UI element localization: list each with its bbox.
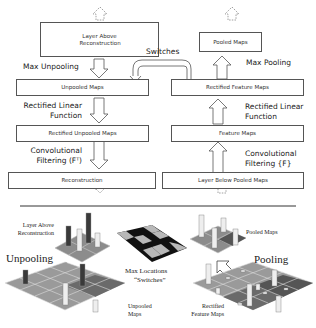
box-label: Rectified Unpooled Maps bbox=[48, 130, 116, 137]
box-label: Rectified Feature Maps bbox=[206, 84, 269, 91]
label-ill-unpooling: Unpooling bbox=[6, 251, 53, 265]
box-label: Unpooled Maps bbox=[61, 84, 103, 91]
label-ill-pooled-maps: Pooled Maps bbox=[246, 229, 278, 237]
pooled-maps-grid bbox=[190, 215, 246, 253]
label-ill-max-locations: Max Locations bbox=[125, 267, 167, 276]
box-label: Layer Above Reconstruction bbox=[80, 33, 120, 47]
box-rectified-feature-maps: Rectified Feature Maps bbox=[171, 79, 304, 96]
label-ill-unpooled-maps: Unpooled Maps bbox=[128, 303, 156, 319]
label-ill-rectified-feature-maps: Rectified Feature Maps bbox=[188, 303, 224, 319]
box-layer-above-reconstruction: Layer Above Reconstruction bbox=[40, 22, 159, 57]
label-max-pooling: Max Pooling bbox=[246, 58, 291, 68]
label-switches: Switches bbox=[146, 47, 179, 57]
label-ill-switches: “Switches” bbox=[134, 276, 166, 285]
label-relu-left: Rectified Linear Function bbox=[18, 101, 82, 121]
label-max-unpooling: Max Unpooling bbox=[23, 62, 79, 72]
box-feature-maps: Feature Maps bbox=[171, 125, 304, 142]
label-relu-right: Rectified Linear Function bbox=[245, 102, 315, 122]
box-label: Layer Below Pooled Maps bbox=[198, 177, 268, 184]
unpooled-maps-grid bbox=[5, 262, 125, 312]
box-reconstruction: Reconstruction bbox=[8, 172, 156, 189]
box-label: Pooled Maps bbox=[213, 39, 247, 46]
label-ill-layer-above: Layer Above Reconstruction bbox=[2, 222, 54, 238]
box-rectified-unpooled-maps: Rectified Unpooled Maps bbox=[16, 125, 149, 142]
box-label: Reconstruction bbox=[61, 177, 102, 184]
box-pooled-maps: Pooled Maps bbox=[199, 32, 262, 52]
box-unpooled-maps: Unpooled Maps bbox=[16, 79, 149, 96]
switches-grid bbox=[117, 225, 187, 262]
box-label: Feature Maps bbox=[219, 130, 256, 137]
layer-above-grid bbox=[55, 213, 110, 262]
label-conv-right: Convolutional Filtering {F} bbox=[245, 149, 315, 169]
label-ill-pooling: Pooling bbox=[254, 252, 288, 266]
label-conv-left: Convolutional Filtering (Fᵀ) bbox=[18, 146, 82, 166]
box-layer-below-pooled-maps: Layer Below Pooled Maps bbox=[162, 172, 304, 189]
